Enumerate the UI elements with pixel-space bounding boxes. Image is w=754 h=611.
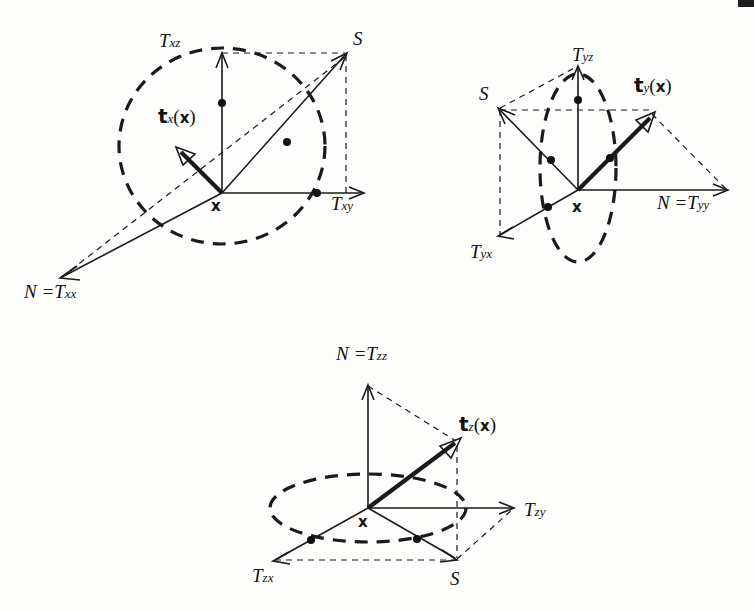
z-label-point-S: S xyxy=(450,568,460,590)
z-label-traction: tz(x) xyxy=(459,412,496,436)
y-dash-right-down xyxy=(652,114,727,190)
y-dash-top-left xyxy=(500,66,578,108)
x-point-S-symbol: S xyxy=(353,28,363,49)
figure-canvas: Txz Txy N =Txx S tx(x) x Tyz Tyx N =Tyy … xyxy=(0,0,754,611)
z-origin-symbol: x xyxy=(358,513,368,531)
x-label-point-S: S xyxy=(353,28,363,50)
z-traction-base: t xyxy=(459,412,469,436)
x-axis-normal-prefix: N = xyxy=(24,281,54,302)
z-axis-depth-subscript: zx xyxy=(263,570,274,585)
y-label-origin: x xyxy=(572,198,582,216)
x-axis-vertical-subscript: xz xyxy=(170,35,181,50)
y-axis-normal-prefix: N = xyxy=(657,192,687,213)
z-axis-normal-subscript: zz xyxy=(377,348,387,363)
z-traction-arg-x: x xyxy=(480,417,490,435)
y-axis-normal-symbol: T xyxy=(687,192,698,213)
x-ray-to-S xyxy=(222,55,345,193)
x-axis-horizontal-symbol: T xyxy=(331,193,342,214)
y-marker-S-ray xyxy=(547,156,555,164)
z-axis-horizontal-subscript: zy xyxy=(535,504,546,519)
y-marker-vertical xyxy=(574,96,582,104)
y-axis-depth-symbol: T xyxy=(470,241,481,262)
x-traction-vector xyxy=(181,152,222,193)
z-point-S-symbol: S xyxy=(450,568,460,589)
z-marker-S-ray xyxy=(413,535,421,543)
x-dash-diagonal xyxy=(62,57,345,277)
x-axis-vertical-symbol: T xyxy=(159,30,170,51)
z-traction-argument-close: ) xyxy=(490,414,496,435)
y-marker-depth xyxy=(544,203,552,211)
x-axis-horizontal-subscript: xy xyxy=(342,198,354,213)
z-dash-corner xyxy=(457,509,513,559)
x-traction-arg-x: x xyxy=(180,109,190,127)
x-label-axis-normal: N =Txx xyxy=(24,281,76,303)
x-traction-base: t xyxy=(158,104,168,128)
z-axis-normal-prefix: N = xyxy=(336,343,366,364)
diagram-x-graphics xyxy=(60,48,364,280)
z-label-axis-normal: N =Tzz xyxy=(336,343,387,365)
z-marker-depth xyxy=(307,536,315,544)
z-axis-normal-symbol: T xyxy=(366,343,377,364)
x-label-traction: tx(x) xyxy=(158,104,196,128)
y-traction-vector xyxy=(578,118,650,190)
y-label-traction: ty(x) xyxy=(634,73,672,97)
x-traction-argument-close: ) xyxy=(189,106,195,127)
z-dash-top xyxy=(368,386,456,441)
y-label-axis-depth: Tyx xyxy=(470,241,492,263)
x-origin-symbol: x xyxy=(211,197,221,215)
y-label-axis-vertical: Tyz xyxy=(572,44,593,66)
z-label-axis-depth: Tzx xyxy=(252,565,273,587)
x-label-axis-vertical: Txz xyxy=(159,30,180,52)
y-origin-symbol: x xyxy=(572,198,582,216)
y-axis-normal-subscript: yy xyxy=(698,197,710,212)
y-label-axis-normal: N =Tyy xyxy=(657,192,709,214)
x-axis-normal-symbol: T xyxy=(54,281,65,302)
y-label-point-S: S xyxy=(479,83,489,105)
z-label-origin: x xyxy=(358,513,368,531)
y-traction-argument-close: ) xyxy=(665,75,671,96)
y-axis-depth-subscript: yx xyxy=(481,246,493,261)
z-label-axis-horizontal: Tzy xyxy=(524,499,545,521)
x-label-origin: x xyxy=(211,197,221,215)
y-point-S-symbol: S xyxy=(479,83,489,104)
y-traction-base: t xyxy=(634,73,644,97)
x-axis-normal-subscript: xx xyxy=(65,286,77,301)
x-label-axis-horizontal: Txy xyxy=(331,193,353,215)
page-corner-mark xyxy=(738,0,754,7)
diagram-y-graphics xyxy=(498,66,728,262)
z-axis-depth-symbol: T xyxy=(252,565,263,586)
z-axis-horizontal-symbol: T xyxy=(524,499,535,520)
y-axis-vertical-subscript: yz xyxy=(583,49,594,64)
x-marker-diagonal xyxy=(283,138,291,146)
y-traction-arg-x: x xyxy=(656,78,666,96)
x-marker-vertical xyxy=(218,99,226,107)
y-axis-vertical-symbol: T xyxy=(572,44,583,65)
x-marker-horizontal xyxy=(313,189,321,197)
y-marker-traction xyxy=(606,154,614,162)
